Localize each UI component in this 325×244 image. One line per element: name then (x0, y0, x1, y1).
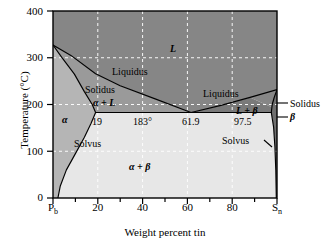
region-label-alpha: α (62, 114, 68, 125)
boundary-label-liquidus-left: Liquidus (112, 66, 148, 77)
sn-subscript: n (278, 207, 282, 216)
boundary-label-solvus-left: Solvus (74, 138, 101, 149)
callout-label-beta: β (290, 111, 295, 122)
boundary-label-liquidus-right: Liquidus (203, 88, 239, 99)
eutectic-temperature-label: 183° (133, 116, 152, 127)
x-tick-60: 60 (167, 202, 207, 213)
region-label-L-plus-beta: L + β (236, 105, 258, 116)
composition-label-97-5: 97.5 (234, 116, 252, 127)
y-tick-300: 300 (3, 52, 43, 63)
x-axis-title: Weight percent tin (53, 226, 277, 238)
phase-diagram-figure: Temperature (°C) Weight percent tin 400 … (0, 0, 325, 244)
pb-subscript: b (54, 207, 58, 216)
x-tick-sn: Sn (257, 202, 297, 216)
boundary-label-solvus-right: Solvus (222, 135, 249, 146)
y-tick-400: 400 (3, 6, 43, 17)
x-tick-80: 80 (212, 202, 252, 213)
x-tick-pb: Pb (33, 202, 73, 216)
boundary-label-solidus-left: Solidus (85, 84, 115, 95)
composition-label-19: 19 (92, 116, 102, 127)
x-tick-20: 20 (78, 202, 118, 213)
region-label-alpha-plus-beta: α + β (129, 161, 150, 172)
region-label-liquid: L (170, 43, 176, 54)
x-tick-40: 40 (123, 202, 163, 213)
composition-label-61-9: 61.9 (182, 116, 200, 127)
y-tick-200: 200 (3, 99, 43, 110)
y-tick-100: 100 (3, 146, 43, 157)
callout-label-solidus-right: Solidus (290, 98, 320, 109)
region-label-alpha-plus-L: α + L (93, 97, 115, 108)
